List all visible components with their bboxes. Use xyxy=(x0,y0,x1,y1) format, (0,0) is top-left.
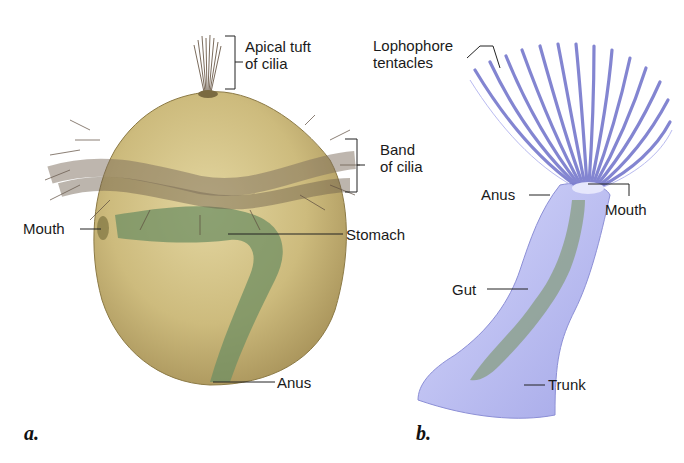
lophophore-tentacles xyxy=(475,44,670,187)
diagram-canvas xyxy=(0,0,684,463)
panel-letter-b: b. xyxy=(416,422,431,445)
label-lophophore-line2: tentacles xyxy=(373,54,453,71)
label-mouth-b: Mouth xyxy=(605,201,647,218)
label-band-of-cilia: Band of cilia xyxy=(380,141,423,175)
apical-tuft-cilia xyxy=(194,35,221,92)
label-band-line2: of cilia xyxy=(380,158,423,175)
label-apical-tuft-line2: of cilia xyxy=(245,55,311,72)
trochophore-illustration xyxy=(45,35,360,385)
label-gut: Gut xyxy=(452,281,476,298)
lophophorate-illustration xyxy=(418,44,672,418)
label-anus-a: Anus xyxy=(277,374,311,391)
label-apical-tuft: Apical tuft of cilia xyxy=(245,38,311,72)
label-band-line1: Band xyxy=(380,141,423,158)
panel-letter-a: a. xyxy=(24,422,39,445)
label-stomach: Stomach xyxy=(346,226,405,243)
label-apical-tuft-line1: Apical tuft xyxy=(245,38,311,55)
label-trunk: Trunk xyxy=(548,376,586,393)
label-mouth-a: Mouth xyxy=(23,220,65,237)
label-lophophore-line1: Lophophore xyxy=(373,37,453,54)
label-anus-b: Anus xyxy=(481,186,515,203)
label-lophophore-tentacles: Lophophore tentacles xyxy=(373,37,453,71)
